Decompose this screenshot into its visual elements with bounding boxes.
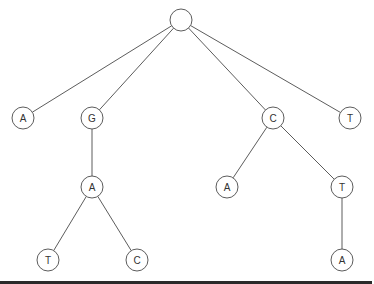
node-label: T [347,113,353,124]
node-label: C [133,255,140,266]
tree-node: A [331,249,353,271]
tree-node: A [81,176,103,198]
node-label: T [45,255,51,266]
node-label: T [339,182,345,193]
edge-n3-n6 [233,127,267,178]
node-label: G [88,113,96,124]
tree-node: C [126,249,148,271]
tree-node: T [339,107,361,129]
tree-node: C [262,107,284,129]
trie-diagram: AGCTAATTCA [0,0,374,284]
tree-node: A [216,176,238,198]
tree-node: G [81,107,103,129]
tree-node: T [37,249,59,271]
node-label: A [89,182,96,193]
edge-root-n3 [189,28,266,110]
node-label: C [269,113,276,124]
node-circle [170,9,192,31]
tree-node: A [12,107,34,129]
nodes-layer: AGCTAATTCA [12,9,361,271]
edge-n5-n8 [54,196,87,250]
edges-layer [32,26,342,251]
root-node [170,9,192,31]
edge-root-n4 [191,26,341,113]
node-label: A [20,113,27,124]
node-label: A [224,182,231,193]
node-label: A [339,255,346,266]
edge-n3-n7 [281,126,334,179]
edge-n5-n9 [98,196,131,250]
edge-root-n1 [32,26,171,112]
tree-node: T [331,176,353,198]
edge-root-n2 [99,28,173,110]
